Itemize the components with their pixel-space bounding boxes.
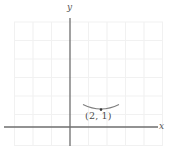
x-axis-label: x <box>159 122 164 131</box>
coordinate-plane-canvas <box>0 0 171 154</box>
y-axis-label: y <box>67 3 72 12</box>
point-coordinate-label: (2, 1) <box>85 111 112 121</box>
coordinate-plane-figure: y x (2, 1) <box>0 0 171 154</box>
